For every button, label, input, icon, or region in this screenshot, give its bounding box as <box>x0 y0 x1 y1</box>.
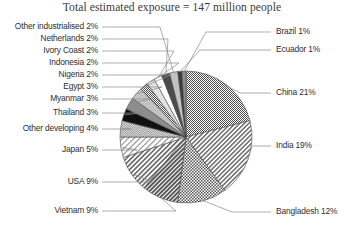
pie-label-india: India 19% <box>276 141 312 150</box>
pie-label-other-industrialised: Other industrialised 2% <box>15 22 98 31</box>
pie-label-other-developing: Other developing 4% <box>23 124 98 133</box>
leader-line <box>202 200 271 212</box>
pie-label-brazil: Brazil 1% <box>276 27 310 36</box>
leader-line <box>180 50 271 72</box>
pie-label-vietnam: Vietnam 9% <box>54 206 98 215</box>
leader-line <box>247 146 271 159</box>
pie-label-thailand: Thailand 3% <box>53 108 98 117</box>
pie-label-netherlands: Netherlands 2% <box>41 34 99 43</box>
pie-label-china: China 21% <box>276 88 316 97</box>
pie-label-egypt: Egypt 3% <box>63 82 98 91</box>
leader-line <box>102 27 174 73</box>
pie-slices-group <box>120 71 252 203</box>
pie-label-bangladesh: Bangladesh 12% <box>276 207 337 216</box>
pie-label-usa: USA 9% <box>68 177 98 186</box>
pie-label-indonesia: Indonesia 2% <box>49 58 98 67</box>
pie-chart-figure: Total estimated exposure = 147 million p… <box>0 0 344 229</box>
leader-line <box>184 32 271 72</box>
pie-label-japan: Japan 5% <box>62 145 98 154</box>
pie-label-nigeria: Nigeria 2% <box>59 70 98 79</box>
leader-line <box>102 39 168 75</box>
pie-label-myanmar: Myanmar 3% <box>50 94 98 103</box>
pie-label-ivory-coast: Ivory Coast 2% <box>43 46 98 55</box>
pie-label-ecuador: Ecuador 1% <box>276 45 320 54</box>
